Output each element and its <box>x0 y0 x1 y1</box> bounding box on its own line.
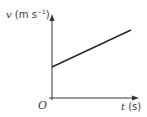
y-axis-label: v (m s−1) <box>6 6 50 21</box>
origin-label: O <box>38 100 47 112</box>
y-axis-arrow-icon <box>50 14 55 21</box>
x-axis-unit: (s) <box>128 101 141 112</box>
x-axis-symbol: t <box>121 101 125 112</box>
x-axis-arrow-icon <box>132 96 139 101</box>
velocity-line <box>52 30 131 67</box>
y-axis-unit: (m s <box>15 9 37 20</box>
y-axis <box>50 14 55 100</box>
y-axis-unit-exponent: −1 <box>37 8 46 15</box>
y-axis-symbol: v <box>6 9 12 20</box>
x-axis-label: t (s) <box>121 101 141 113</box>
y-axis-unit-close: ) <box>46 9 50 20</box>
x-axis <box>49 96 139 101</box>
